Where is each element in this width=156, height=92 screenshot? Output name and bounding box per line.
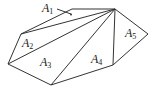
region-label-a1: A1 [41,1,53,16]
region-label-a2: A2 [21,36,33,51]
triangulated-polygon-diagram: A1 A2 A3 A4 A5 [0,0,156,92]
region-label-a3: A3 [39,55,51,70]
a1-leader-arrowhead [70,14,72,16]
diagonal-4 [113,9,115,65]
diagonal-3 [51,9,115,85]
region-label-a5: A5 [124,26,136,41]
region-label-a4: A4 [90,52,102,67]
